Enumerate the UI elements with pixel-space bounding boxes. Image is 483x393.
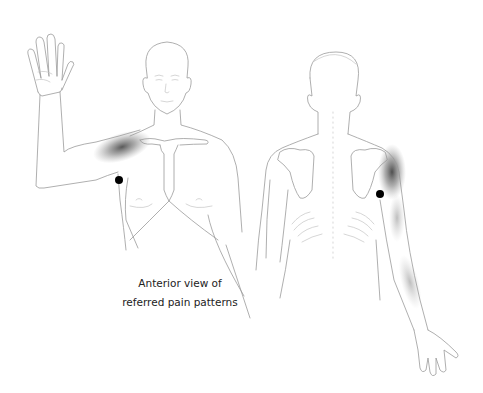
- caption-line-1: Anterior view of: [112, 274, 248, 293]
- posterior-figure: [256, 52, 458, 376]
- posterior-left-arm: [266, 180, 288, 262]
- posterior-arm-pain-zone: [394, 253, 426, 312]
- anterior-torso-sides: [118, 174, 138, 250]
- posterior-left-scapula: [278, 148, 314, 198]
- face-features: [155, 75, 179, 102]
- anterior-raised-hand: [28, 34, 74, 96]
- caption-line-2: referred pain patterns: [112, 293, 248, 312]
- anterior-clavicles-sternum: [140, 139, 208, 202]
- posterior-lower-torso: [280, 240, 380, 300]
- figure-caption: Anterior view of referred pain patterns: [112, 274, 248, 312]
- anterior-pain-zone: [89, 124, 155, 169]
- anterior-head: [143, 42, 191, 114]
- palm-lines: [36, 71, 52, 82]
- posterior-trigger-point: [376, 190, 384, 198]
- posterior-head: [308, 52, 361, 134]
- anterior-neck-shoulders: [130, 110, 242, 232]
- referred-pain-illustration: [0, 0, 483, 393]
- anterior-ribcage: [130, 201, 218, 240]
- anterior-trigger-point: [115, 176, 123, 184]
